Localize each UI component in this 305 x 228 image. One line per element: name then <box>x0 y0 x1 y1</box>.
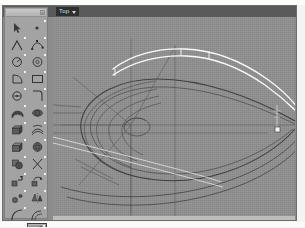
flyout-marker-icon <box>24 105 26 107</box>
boolean-union-icon <box>11 158 24 170</box>
flyout-marker-icon <box>24 139 26 141</box>
tail-sweep-curves <box>61 137 295 205</box>
offset-curve-tool[interactable] <box>7 206 27 223</box>
flyout-marker-icon <box>24 37 26 39</box>
flyout-marker-icon <box>44 54 46 56</box>
box-solid-tool[interactable] <box>7 138 27 155</box>
flyout-marker-icon <box>44 173 46 175</box>
split-trim-icon <box>31 158 44 170</box>
dimension-icon <box>11 226 24 228</box>
close-icon[interactable]: x <box>40 10 45 15</box>
point-object-tool[interactable] <box>27 19 47 36</box>
sphere-solid-tool[interactable] <box>27 138 47 155</box>
revolve-icon <box>31 107 44 119</box>
ellipse-icon <box>31 56 44 68</box>
surface-patch-icon <box>11 107 24 119</box>
flyout-marker-icon <box>24 224 26 226</box>
circle-center-tool[interactable] <box>7 87 27 104</box>
circle-tool[interactable] <box>7 53 27 70</box>
surface-edit-tool[interactable] <box>27 223 47 227</box>
wireframe-geometry <box>53 17 295 216</box>
scale-transform-tool[interactable] <box>7 189 27 206</box>
flyout-marker-icon <box>44 139 46 141</box>
box-solid-icon <box>11 141 24 153</box>
ellipse-tool[interactable] <box>27 53 47 70</box>
flyout-marker-icon <box>24 190 26 192</box>
flyout-marker-icon <box>24 122 26 124</box>
mirror-tool[interactable] <box>27 189 47 206</box>
extrude-icon <box>11 124 24 136</box>
boolean-union-tool[interactable] <box>7 155 27 172</box>
point-icon <box>31 22 43 34</box>
move-transform-tool[interactable] <box>7 172 27 189</box>
flyout-marker-icon <box>44 71 46 73</box>
nose-isocurves <box>84 81 161 173</box>
secondary-highlight-curve <box>53 137 223 187</box>
tool-grid <box>6 18 46 217</box>
rotate-transform-tool[interactable] <box>27 172 47 189</box>
control-curve-icon <box>31 39 44 51</box>
chevron-down-icon[interactable] <box>72 11 76 14</box>
flyout-marker-icon <box>24 173 26 175</box>
rectangle-tool[interactable] <box>27 70 47 87</box>
offset-curve-icon <box>11 209 24 221</box>
flyout-marker-icon <box>44 37 46 39</box>
circle-icon <box>11 56 23 68</box>
blend-curve-tool[interactable] <box>27 206 47 223</box>
loft-surface-tool[interactable] <box>27 121 47 138</box>
blend-curve-icon <box>31 209 44 221</box>
surface-from-curves-tool[interactable] <box>7 104 27 121</box>
sphere-solid-icon <box>31 141 44 153</box>
viewport-canvas[interactable] <box>53 17 295 216</box>
viewport-tab[interactable]: Top <box>56 7 79 16</box>
mirror-icon <box>31 192 44 204</box>
arc-icon <box>11 73 24 85</box>
scale-icon <box>11 192 24 204</box>
viewport-bottom-edge <box>53 216 295 220</box>
flyout-marker-icon <box>44 122 46 124</box>
select-pointer-tool[interactable] <box>7 19 27 36</box>
split-trim-tool[interactable] <box>27 155 47 172</box>
flyout-marker-icon <box>43 225 45 227</box>
flyout-marker-icon <box>24 54 26 56</box>
dimension-tool[interactable] <box>7 223 27 227</box>
loft-icon <box>31 124 44 136</box>
arc-tool[interactable] <box>7 70 27 87</box>
flyout-marker-icon <box>44 20 46 22</box>
revolve-surface-tool[interactable] <box>27 104 47 121</box>
flyout-marker-icon <box>44 105 46 107</box>
curve-control-points-tool[interactable] <box>27 36 47 53</box>
rotate-icon <box>31 175 44 187</box>
tool-palette: x <box>4 7 48 219</box>
rectangle-icon <box>31 73 44 85</box>
tool-palette-titlebar[interactable]: x <box>6 9 46 17</box>
selected-curve-ticks <box>115 48 209 76</box>
flyout-marker-icon <box>24 207 26 209</box>
move-arrows-icon <box>11 175 24 187</box>
viewport-tab-label: Top <box>59 7 69 16</box>
polyline-icon <box>11 39 24 51</box>
flyout-marker-icon <box>44 88 46 90</box>
flyout-marker-icon <box>24 156 26 158</box>
application-screenshot: Top <box>0 0 305 227</box>
fillet-corner-tool[interactable] <box>27 87 47 104</box>
flyout-marker-icon <box>24 88 26 90</box>
polyline-tool[interactable] <box>7 36 27 53</box>
flyout-marker-icon <box>44 190 46 192</box>
circle-center-icon <box>11 90 23 102</box>
flyout-marker-icon <box>44 156 46 158</box>
flyout-marker-icon <box>44 207 46 209</box>
surface-edit-icon <box>31 226 43 227</box>
flyout-marker-icon <box>24 71 26 73</box>
fillet-icon <box>31 90 44 102</box>
arrow-pointer-icon <box>11 22 23 34</box>
construction-lines <box>53 39 295 216</box>
extrude-surface-tool[interactable] <box>7 121 27 138</box>
